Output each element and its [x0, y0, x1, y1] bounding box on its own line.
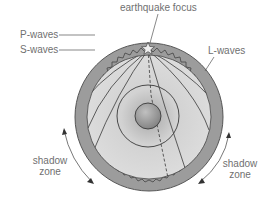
shadow-zone-left-line1: shadow — [30, 155, 70, 166]
shadow-zone-right-label: shadow zone — [220, 158, 260, 180]
p-waves-label: P-waves — [20, 29, 58, 40]
shadow-zone-right-line2: zone — [220, 169, 260, 180]
arrowhead-icon — [226, 132, 231, 138]
arrowhead-icon — [62, 128, 67, 135]
shadow-zone-left-line2: zone — [30, 166, 70, 177]
earthquake-focus-label: earthquake focus — [120, 2, 197, 13]
arrowhead-icon — [87, 178, 94, 184]
shadow-zone-left-label: shadow zone — [30, 155, 70, 177]
l-waves-leader-line — [205, 57, 214, 71]
focus-leader-line — [150, 14, 158, 43]
shadow-zone-right-line1: shadow — [220, 158, 260, 169]
inner-core — [135, 103, 161, 129]
l-waves-label: L-waves — [208, 45, 245, 56]
s-waves-label: S-waves — [20, 44, 58, 55]
